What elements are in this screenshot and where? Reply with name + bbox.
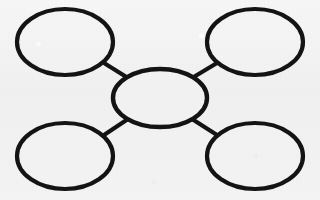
concept-map-svg: [0, 0, 320, 200]
node-top-left[interactable]: [17, 9, 113, 75]
connector-center-to-top-right: [192, 63, 217, 78]
connector-center-to-bottom-right: [192, 119, 217, 135]
node-center-ellipse[interactable]: [113, 69, 207, 127]
node-top-right-ellipse[interactable]: [207, 9, 303, 75]
node-top-left-ellipse[interactable]: [17, 9, 113, 75]
connector-center-to-bottom-left: [104, 119, 128, 135]
node-bottom-left[interactable]: [17, 123, 113, 189]
node-bottom-right[interactable]: [207, 123, 303, 189]
connector-center-to-top-left: [104, 63, 128, 78]
node-bottom-right-ellipse[interactable]: [207, 123, 303, 189]
node-top-right[interactable]: [207, 9, 303, 75]
node-center[interactable]: [113, 69, 207, 127]
diagram-canvas: [0, 0, 320, 200]
node-bottom-left-ellipse[interactable]: [17, 123, 113, 189]
